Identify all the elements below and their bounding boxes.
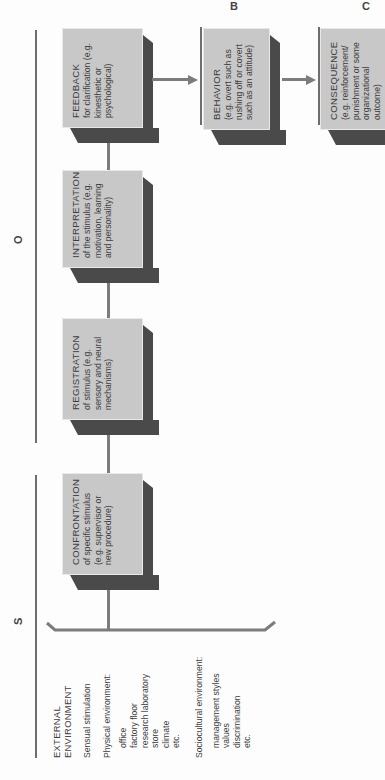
diagram-stage: S O B B C EXTERNAL ENVIRONMENT Sensual s… bbox=[0, 0, 385, 780]
box-title: INTERPRETATION bbox=[71, 178, 81, 258]
box-desc: (e.g. reinforcement/ punishment or some … bbox=[340, 36, 382, 120]
box-desc: for clarification (e.g. kinesthetic or p… bbox=[82, 36, 113, 118]
box-desc: of the stimulus (e.g. motivation, learni… bbox=[82, 178, 113, 258]
arrow-interpretation-to-feedback bbox=[107, 140, 110, 170]
box-title: REGISTRATION bbox=[71, 326, 81, 410]
box-title: CONFRONTATION bbox=[71, 481, 81, 565]
arrow-environment-to-confrontation bbox=[107, 585, 110, 629]
arrow-registration-to-interpretation bbox=[107, 280, 110, 318]
box-title: CONSEQUENCE bbox=[329, 36, 339, 120]
arrow-feedback-to-behavior bbox=[152, 78, 189, 81]
arrow-behavior-to-consequence bbox=[282, 78, 307, 81]
box-desc: (e.g. overt such as rushing off or cover… bbox=[223, 36, 254, 120]
box-title: BEHAVIOR bbox=[212, 36, 222, 120]
box-title: FEEDBACK bbox=[71, 36, 81, 118]
arrow-confrontation-to-registration bbox=[107, 431, 110, 473]
box-desc: of specific stimulus (e.g. supervisor or… bbox=[82, 481, 113, 565]
box-desc: of stimulus (e.g. sensory and neural mec… bbox=[82, 326, 113, 410]
